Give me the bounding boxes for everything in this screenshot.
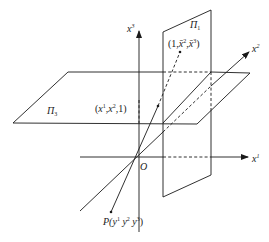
label-origin: O: [140, 161, 147, 172]
point-P-dot: [110, 211, 113, 214]
diagram-canvas: x3 x1 x2 O Π1 Π3 (1,x̄2,x̄3) (x1,x2,1) P…: [0, 0, 269, 242]
label-x1: x1: [251, 153, 259, 164]
plane-pi3: [13, 72, 250, 124]
label-pi3: Π3: [46, 105, 57, 117]
label-pi1: Π1: [189, 19, 200, 31]
point-pi1-dot: [179, 51, 182, 54]
label-point-pi1: (1,x̄2,x̄3): [168, 38, 200, 50]
point-pi3-dot: [157, 105, 160, 108]
label-point-pi3: (x1,x2,1): [95, 103, 127, 115]
axis-x2: [80, 52, 249, 211]
label-x3: x3: [126, 23, 134, 34]
label-x2: x2: [251, 43, 259, 54]
projection-ray: [110, 51, 182, 214]
label-point-P: P(y1 y2 y3): [102, 216, 143, 228]
